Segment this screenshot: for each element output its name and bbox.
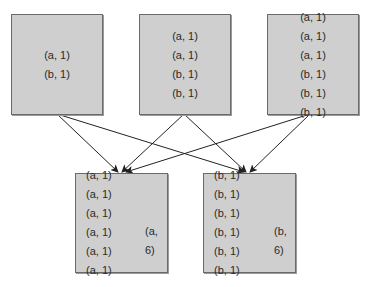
arrow-m1-rb [57, 114, 244, 172]
mapper-box-1: (a, 1) (b, 1) [11, 14, 103, 115]
arrow-m3-rb [250, 114, 310, 172]
pair: (a, 1) [44, 46, 70, 65]
pair: (a, 1) [86, 204, 112, 223]
pair: (b, 1) [44, 65, 70, 84]
pair: (a, 1) [172, 46, 198, 65]
reducer-b-result: (b, 6) [274, 222, 295, 260]
pair: (a, 1) [86, 261, 112, 280]
pair: (a, 1) [86, 223, 112, 242]
reducer-b-pairs: (b, 1) (b, 1) (b, 1) (b, 1) (b, 1) (b, 1… [214, 174, 240, 272]
pair: (b, 1) [172, 84, 198, 103]
reducer-a-result: (a, 6) [145, 222, 167, 260]
mapper-box-3: (a, 1) (a, 1) (a, 1) (b, 1) (b, 1) (b, 1… [267, 14, 359, 115]
pair: (a, 1) [300, 8, 326, 27]
mapper-3-pairs: (a, 1) (a, 1) (a, 1) (b, 1) (b, 1) (b, 1… [268, 15, 358, 114]
pair: (b, 1) [214, 204, 240, 223]
reducer-box-b: (b, 1) (b, 1) (b, 1) (b, 1) (b, 1) (b, 1… [203, 173, 296, 273]
reducer-a-pairs: (a, 1) (a, 1) (a, 1) (a, 1) (a, 1) (a, 1… [86, 174, 112, 272]
mapper-2-pairs: (a, 1) (a, 1) (b, 1) (b, 1) [140, 15, 230, 114]
pair: (a, 1) [300, 46, 326, 65]
reducer-box-a: (a, 1) (a, 1) (a, 1) (a, 1) (a, 1) (a, 1… [75, 173, 168, 273]
pair: (a, 1) [172, 27, 198, 46]
pair: (a, 1) [86, 242, 112, 261]
pair: (b, 1) [300, 84, 326, 103]
pair: (a, 1) [300, 27, 326, 46]
pair: (a, 1) [86, 166, 112, 185]
pair: (b, 1) [214, 261, 240, 280]
pair: (b, 1) [300, 103, 326, 122]
pair: (b, 1) [214, 185, 240, 204]
pair: (b, 1) [214, 223, 240, 242]
pair: (b, 1) [214, 166, 240, 185]
pair: (b, 1) [300, 65, 326, 84]
pair: (a, 1) [86, 185, 112, 204]
pair: (b, 1) [214, 242, 240, 261]
arrow-m1-ra [57, 114, 118, 172]
pair: (b, 1) [172, 65, 198, 84]
mapper-box-2: (a, 1) (a, 1) (b, 1) (b, 1) [139, 14, 231, 115]
mapper-1-pairs: (a, 1) (b, 1) [12, 15, 102, 114]
